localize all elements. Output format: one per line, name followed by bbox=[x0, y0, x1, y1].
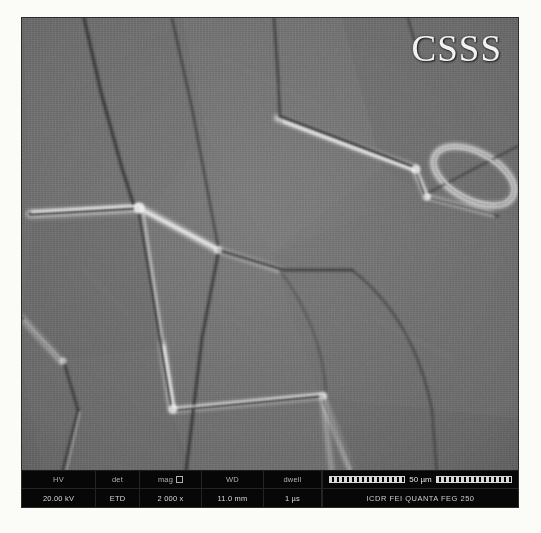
scale-bar-segment-right bbox=[436, 476, 512, 483]
databar-header-left: HV det mag WD dwell bbox=[22, 471, 322, 488]
databar-value-wd: 11.0 mm bbox=[202, 489, 264, 507]
page-root: CSSS HV det mag WD dwell 50 µm bbox=[0, 0, 541, 533]
databar-header-mag-text: mag bbox=[158, 475, 173, 484]
sem-databar: HV det mag WD dwell 50 µm bbox=[22, 470, 518, 507]
sem-micrograph: CSSS HV det mag WD dwell 50 µm bbox=[22, 18, 518, 507]
databar-header-wd: WD bbox=[202, 471, 264, 488]
databar-value-dwell: 1 µs bbox=[264, 489, 322, 507]
scale-bar-segment-left bbox=[329, 476, 405, 483]
databar-header-hv: HV bbox=[22, 471, 96, 488]
instrument-label: ICDR FEI QUANTA FEG 250 bbox=[323, 494, 518, 503]
databar-header-det: det bbox=[96, 471, 140, 488]
scale-bar: 50 µm bbox=[322, 471, 518, 488]
csss-watermark: CSSS bbox=[412, 30, 502, 67]
scanline-noise bbox=[22, 18, 518, 507]
scale-bar-label: 50 µm bbox=[409, 475, 431, 484]
scale-bar-graphic: 50 µm bbox=[323, 471, 518, 488]
mag-box-icon bbox=[176, 476, 183, 483]
databar-header-dwell: dwell bbox=[264, 471, 322, 488]
databar-value-det: ETD bbox=[96, 489, 140, 507]
instrument-label-container: ICDR FEI QUANTA FEG 250 bbox=[322, 489, 518, 507]
databar-value-row: 20.00 kV ETD 2 000 x 11.0 mm 1 µs ICDR F… bbox=[22, 489, 518, 507]
databar-header-mag: mag bbox=[140, 471, 202, 488]
databar-value-hv: 20.00 kV bbox=[22, 489, 96, 507]
databar-value-left: 20.00 kV ETD 2 000 x 11.0 mm 1 µs bbox=[22, 489, 322, 507]
databar-value-mag: 2 000 x bbox=[140, 489, 202, 507]
databar-header-row: HV det mag WD dwell 50 µm bbox=[22, 471, 518, 489]
